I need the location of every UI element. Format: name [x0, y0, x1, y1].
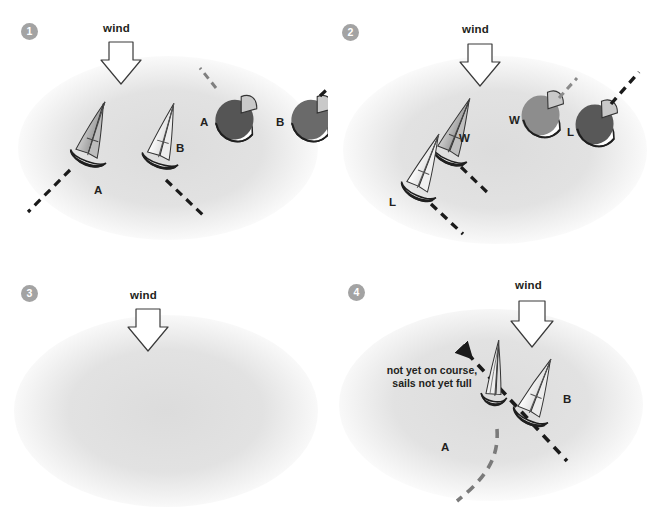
panel-1-graphics: A B A [0, 0, 328, 262]
panel-2-graphics: W L W [327, 0, 655, 262]
boat-label-w-panel2: W [459, 132, 470, 144]
boat-label-b-top-panel1: B [276, 116, 284, 128]
course-line-l-top-panel2 [611, 72, 639, 104]
boat-label-w-top-panel2: W [509, 114, 520, 126]
boat-label-a-panel4: A [441, 441, 449, 453]
step-badge-1: 1 [21, 23, 38, 40]
figure-sheet: A B A [0, 0, 655, 526]
wind-label-panel-4: wind [515, 279, 542, 291]
boat-label-b-panel4: B [563, 393, 571, 405]
panel-step-1: A B A [0, 0, 328, 262]
wind-label-panel-2: wind [462, 23, 489, 35]
annotation-not-on-course: not yet on course, sails not yet full [367, 364, 497, 390]
panel-step-4: A B 4 wind not yet on course, sails not … [327, 261, 655, 526]
wind-label-panel-1: wind [103, 22, 130, 34]
wind-field-blob [14, 315, 318, 507]
boat-label-l-panel2: L [389, 196, 396, 208]
boat-label-b-panel1: B [176, 142, 184, 154]
wind-field-blob [343, 56, 647, 244]
boat-label-a-top-panel1: A [200, 116, 208, 128]
panel-4-graphics: A B [327, 261, 655, 526]
annotation-line-2: sails not yet full [367, 377, 497, 390]
wind-label-panel-3: wind [130, 289, 157, 301]
step-badge-3: 3 [21, 285, 38, 302]
boat-label-l-top-panel2: L [567, 126, 574, 138]
panel-step-2: W L W [327, 0, 655, 262]
step-badge-2: 2 [342, 24, 359, 41]
panel-3-graphics: B A A [0, 261, 328, 526]
step-badge-4: 4 [348, 284, 365, 301]
panel-step-3: B A A [0, 261, 328, 526]
annotation-line-1: not yet on course, [367, 364, 497, 377]
boat-label-a-panel1: A [94, 184, 102, 196]
figure-caption [20, 512, 280, 524]
